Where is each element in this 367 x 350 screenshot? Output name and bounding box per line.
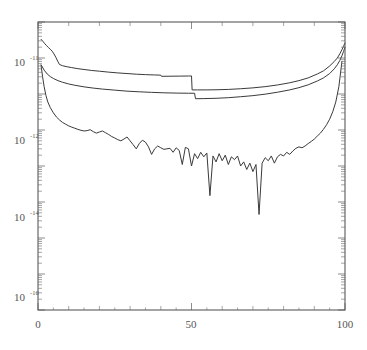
y-tick-label-exponent-0: -11: [30, 54, 38, 61]
x-tick-label-0: 0: [35, 318, 41, 330]
y-tick-label-exponent-2: -14: [30, 209, 39, 216]
y-tick-label-mantissa-3: 10: [14, 291, 26, 303]
line-chart: 10 -11 10 -12 10 -14 10 -16 0 50 100: [0, 0, 367, 350]
x-tick-label-1: 50: [186, 318, 198, 330]
y-tick-label-exponent-3: -16: [30, 289, 39, 296]
y-tick-label-exponent-1: -12: [30, 132, 39, 139]
y-tick-label-mantissa-0: 10: [14, 56, 26, 68]
x-axis-labels: 0 50 100: [35, 318, 354, 330]
y-tick-label-mantissa-1: 10: [14, 134, 26, 146]
y-tick-label-mantissa-2: 10: [14, 211, 26, 223]
x-tick-label-2: 100: [337, 318, 354, 330]
chart-figure: 10 -11 10 -12 10 -14 10 -16 0 50 100: [0, 0, 367, 350]
y-axis-labels: 10 -11 10 -12 10 -14 10 -16: [14, 54, 39, 303]
